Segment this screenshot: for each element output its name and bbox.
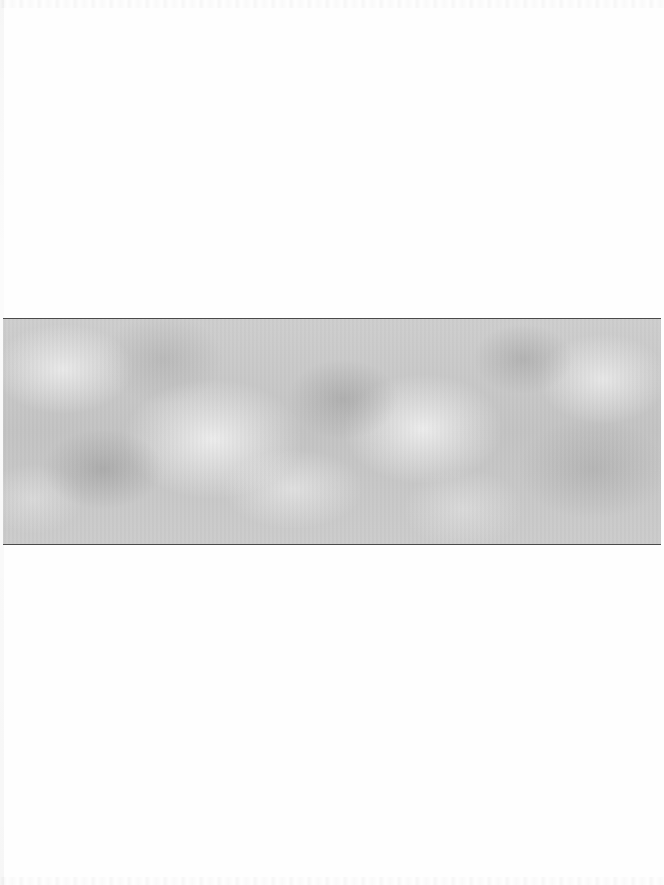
document-page xyxy=(0,0,664,885)
bleed-through-bottom xyxy=(0,877,664,885)
cloud-texture-band xyxy=(3,318,661,545)
bleed-through-top xyxy=(0,0,664,8)
